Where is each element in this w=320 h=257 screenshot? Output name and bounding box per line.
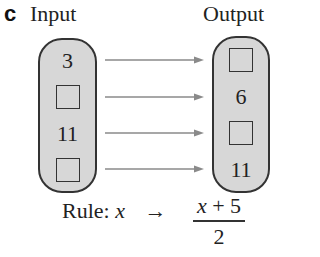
rule-denominator: 2 [193,224,245,249]
arrowhead-3 [194,130,204,137]
rule-variable: x [115,198,125,223]
arrowhead-1 [194,57,204,64]
fraction-bar [193,220,245,222]
rule-arrow: → [144,198,166,223]
arrowhead-2 [194,94,204,101]
rule-numerator: x + 5 [193,193,245,218]
rule-prefix: Rule: [62,198,115,223]
rule-fraction: x + 5 2 [193,193,245,249]
arrowhead-4 [194,166,204,173]
rule-text: Rule: x → [62,198,166,224]
